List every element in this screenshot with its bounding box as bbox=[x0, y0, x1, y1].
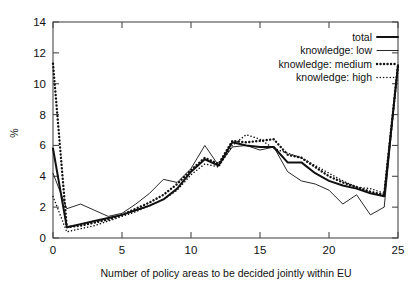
legend-label-3: knowledge: high bbox=[296, 71, 372, 83]
x-tick-label: 10 bbox=[185, 244, 198, 256]
y-tick-label: 0 bbox=[40, 232, 46, 244]
line-chart: 02468101214 0510152025 totalknowledge: l… bbox=[0, 0, 416, 289]
x-tick-label: 15 bbox=[254, 244, 267, 256]
y-tick-label: 12 bbox=[33, 47, 46, 59]
legend-label-0: total bbox=[352, 31, 372, 43]
y-axis-label: % bbox=[8, 128, 20, 137]
y-tick-label: 6 bbox=[40, 139, 46, 151]
legend-label-2: knowledge: medium bbox=[279, 58, 373, 70]
y-tick-label: 4 bbox=[40, 170, 47, 182]
y-tick-label: 14 bbox=[33, 16, 46, 28]
x-axis-label: Number of policy areas to be decided joi… bbox=[101, 267, 352, 279]
x-tick-label: 5 bbox=[119, 244, 125, 256]
x-tick-label: 25 bbox=[392, 244, 405, 256]
x-tick-label: 0 bbox=[50, 244, 56, 256]
y-tick-label: 2 bbox=[40, 201, 46, 213]
chart-figure: 02468101214 0510152025 totalknowledge: l… bbox=[0, 0, 416, 289]
y-tick-label: 10 bbox=[33, 78, 46, 90]
y-tick-label: 8 bbox=[40, 109, 46, 121]
x-tick-label: 20 bbox=[323, 244, 336, 256]
legend-label-1: knowledge: low bbox=[300, 44, 372, 56]
